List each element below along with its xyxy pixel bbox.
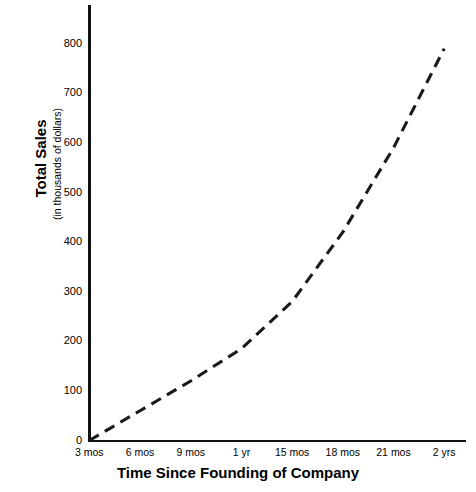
sales-trend-line bbox=[89, 49, 444, 441]
x-axis-title: Time Since Founding of Company bbox=[0, 464, 476, 481]
series-line bbox=[0, 0, 476, 492]
line-chart: Total Sales (in thousands of dollars) 01… bbox=[0, 0, 476, 492]
